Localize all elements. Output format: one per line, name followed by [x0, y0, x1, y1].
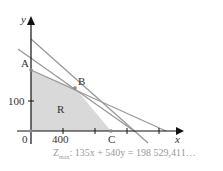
point-b — [73, 86, 77, 90]
lp-graph — [0, 0, 223, 171]
x-axis-label: x — [175, 134, 180, 145]
origin-label: 0 — [22, 134, 28, 145]
point-b-label: B — [78, 76, 85, 87]
objective-text: : 135x + 540y = 198 529,411… — [69, 147, 195, 158]
region-label: R — [57, 104, 64, 115]
objective-equation: Zmax: 135x + 540y = 198 529,411… — [53, 147, 196, 160]
z-subscript: max — [59, 154, 69, 160]
point-c-label: C — [108, 134, 115, 145]
point-a — [29, 68, 33, 72]
y-tick-label: 100 — [8, 96, 25, 107]
y-axis-label: y — [21, 14, 26, 25]
y-axis-arrow-icon — [27, 16, 35, 25]
point-o — [29, 129, 33, 133]
x-tick-label: 400 — [52, 134, 69, 145]
point-a-label: A — [21, 58, 29, 69]
